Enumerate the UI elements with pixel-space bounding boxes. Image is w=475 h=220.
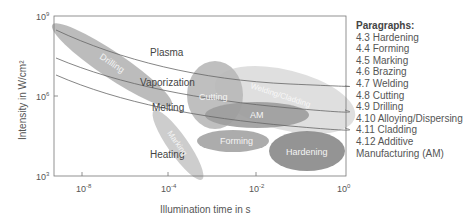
region-label-vaporization: Vaporization [140, 77, 195, 88]
x-axis-title: Illumination time in s [160, 204, 251, 215]
legend-item: 4.9 Drilling [356, 101, 463, 113]
legend-item: Manufacturing (AM) [356, 148, 463, 160]
legend-item: 4.5 Marking [356, 55, 463, 67]
x-tick-labels: 10-8 10-4 10-2 100 [76, 183, 351, 194]
y-tick-1e9: 109 [36, 11, 50, 22]
y-tick-1e6: 106 [36, 91, 50, 102]
y-axis-title: Intensity in W/cm² [17, 60, 28, 140]
x-tick-1e-2: 10-2 [249, 183, 265, 194]
legend-item: 4.10 Alloying/Dispersing [356, 113, 463, 125]
legend-item: 4.7 Welding [356, 78, 463, 90]
process-label-hardening: Hardening [286, 147, 328, 157]
region-label-melting: Melting [152, 102, 184, 113]
legend-item: 4.11 Cladding [356, 124, 463, 136]
process-label-am: AM [250, 110, 264, 120]
legend-item: 4.12 Additive [356, 136, 463, 148]
y-tick-1e3: 103 [36, 171, 50, 182]
x-tick-1e-4: 10-4 [161, 183, 177, 194]
legend-item: 4.4 Forming [356, 43, 463, 55]
region-label-plasma: Plasma [150, 47, 184, 58]
legend-heading: Paragraphs: [356, 20, 463, 32]
x-tick-1e0: 100 [337, 183, 351, 194]
y-tick-labels: 109 106 103 [36, 11, 50, 182]
process-label-forming: Forming [220, 136, 253, 146]
process-label-cutting: Cutting [199, 92, 228, 102]
legend-item: 4.3 Hardening [356, 32, 463, 44]
paragraph-legend: Paragraphs: 4.3 Hardening 4.4 Forming 4.… [356, 20, 463, 159]
x-tick-1e-8: 10-8 [76, 183, 92, 194]
legend-item: 4.6 Brazing [356, 66, 463, 78]
legend-item: 4.8 Cutting [356, 90, 463, 102]
